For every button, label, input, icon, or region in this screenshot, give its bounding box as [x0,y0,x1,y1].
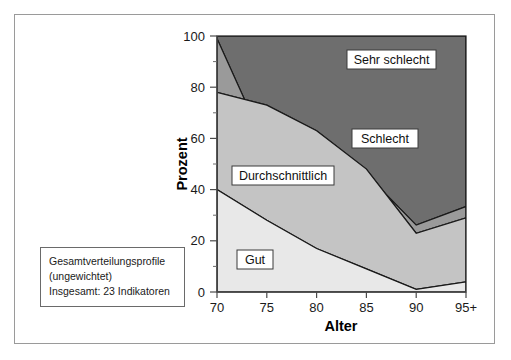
note-box: Gesamtverteilungsprofile (ungewichtet) I… [40,247,185,307]
y-tick-label: 80 [191,80,205,95]
y-axis-title: Prozent [174,137,190,190]
x-axis-tick-labels: 70 75 80 85 90 95+ [210,300,477,315]
x-axis-title: Alter [324,318,357,334]
x-tick-label: 75 [260,300,274,315]
y-axis-ticks [210,36,217,292]
label-gut: Gut [237,250,273,269]
area-label-text: Gut [245,253,266,267]
x-tick-label: 70 [210,300,224,315]
note-line-1: Gesamtverteilungsprofile [49,254,177,269]
area-label-text: Sehr schlecht [354,53,430,67]
y-tick-label: 20 [191,233,205,248]
x-tick-label: 90 [409,300,423,315]
label-sehr-schlecht: Sehr schlecht [347,50,436,69]
x-tick-label: 95+ [455,300,477,315]
y-tick-label: 0 [198,285,205,300]
x-axis-ticks [217,292,466,298]
y-tick-label: 40 [191,182,205,197]
note-line-3: Insgesamt: 23 Indikatoren [49,284,177,299]
x-tick-label: 80 [309,300,323,315]
label-durchschnittlich: Durchschnittlich [232,166,334,185]
area-label-text: Schlecht [361,132,409,146]
label-schlecht: Schlecht [352,129,418,148]
area-label-text: Durchschnittlich [239,169,327,183]
y-tick-label: 60 [191,131,205,146]
x-tick-label: 85 [359,300,373,315]
y-tick-label: 100 [183,29,205,44]
note-line-2: (ungewichtet) [49,269,177,284]
